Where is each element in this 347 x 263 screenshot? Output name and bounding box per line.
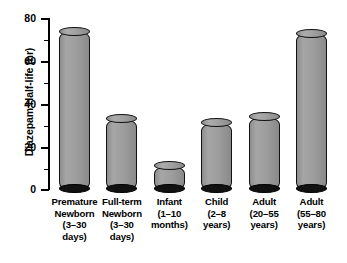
bar-top-cap <box>296 29 327 38</box>
y-tick-minor-50 <box>44 83 49 85</box>
bar-base-ellipse <box>106 184 137 193</box>
bar <box>59 31 90 190</box>
y-tick-20 <box>41 147 49 149</box>
y-tick-label-40: 40 <box>10 99 36 110</box>
category-label-line: years) <box>282 219 342 231</box>
y-tick-80 <box>41 18 49 20</box>
y-tick-minor-70 <box>44 40 49 42</box>
y-tick-label-0: 0 <box>10 184 36 195</box>
bar-base-ellipse <box>154 184 185 193</box>
bar-chart-figure: Diazepam Half-life (hr) 80 60 40 20 0 Pr… <box>0 0 347 263</box>
category-label-line: days) <box>92 231 152 243</box>
category-label: Adult(55–80years) <box>282 196 342 231</box>
bar <box>201 123 232 190</box>
bar <box>106 119 137 191</box>
bar-top-cap <box>249 112 280 121</box>
category-label-line: (55–80 <box>282 208 342 220</box>
y-tick-label-60: 60 <box>10 56 36 67</box>
bar-top-cap <box>59 27 90 36</box>
y-tick-40 <box>41 104 49 106</box>
y-tick-minor-30 <box>44 126 49 128</box>
bar-base-ellipse <box>249 184 280 193</box>
bar <box>249 117 280 191</box>
y-tick-label-20: 20 <box>10 142 36 153</box>
bar-base-ellipse <box>201 184 232 193</box>
y-tick-minor-10 <box>44 169 49 171</box>
y-tick-0 <box>41 189 49 191</box>
bar-base-ellipse <box>59 184 90 193</box>
y-tick-label-80: 80 <box>10 13 36 24</box>
category-label-line: Adult <box>282 196 342 208</box>
bar-base-ellipse <box>296 184 327 193</box>
y-tick-60 <box>41 61 49 63</box>
bar <box>296 33 327 190</box>
